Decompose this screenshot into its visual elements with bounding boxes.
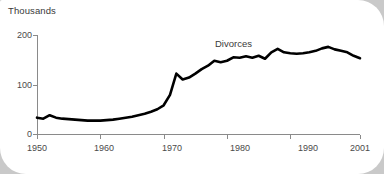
chart-screenshot: Thousands Divorces 200 100 0 1950 1960 1… — [0, 0, 384, 174]
y-axis-ticks — [33, 36, 38, 135]
plot-canvas — [0, 0, 384, 174]
line-series-divorces — [37, 47, 360, 121]
x-axis-ticks — [38, 135, 361, 140]
divorces-line-chart: Thousands Divorces 200 100 0 1950 1960 1… — [0, 0, 384, 174]
series-group — [37, 47, 360, 121]
